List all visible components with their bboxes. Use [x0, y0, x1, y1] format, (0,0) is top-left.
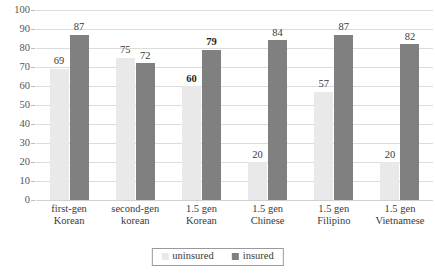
bar-uninsured: 69 [50, 69, 69, 200]
x-axis-category-line: Korean [168, 215, 234, 227]
x-axis-category-label: first-genKorean [36, 203, 102, 227]
x-axis-labels: first-genKoreansecond-genkorean1.5 genKo… [36, 203, 433, 227]
y-tick-mark [31, 181, 35, 182]
x-axis-category-line: Vietnamese [367, 215, 433, 227]
bar-value-label: 79 [206, 37, 217, 48]
bar-uninsured: 60 [182, 86, 201, 200]
bar-insured: 82 [400, 44, 419, 200]
x-axis-category-label: 1.5 genKorean [168, 203, 234, 227]
bar-group: 5787 [301, 10, 367, 200]
x-axis-category-line: 1.5 gen [235, 203, 301, 215]
bar-value-label: 87 [339, 22, 350, 33]
x-axis-category-line: Chinese [235, 215, 301, 227]
y-axis-tick-label: 80 [20, 43, 31, 54]
bar-uninsured: 20 [380, 162, 399, 200]
bar-group: 2084 [235, 10, 301, 200]
x-axis-category-label: 1.5 genFilipino [301, 203, 367, 227]
y-axis-tick-label: 30 [20, 138, 31, 149]
x-axis-category-line: Filipino [301, 215, 367, 227]
y-tick-mark [31, 162, 35, 163]
y-tick-mark [31, 67, 35, 68]
y-tick-mark [31, 143, 35, 144]
legend-item-uninsured[interactable]: uninsured [161, 251, 213, 262]
bar-value-label: 84 [272, 28, 283, 39]
y-axis-tick-label: 70 [20, 62, 31, 73]
x-axis-category-line: korean [102, 215, 168, 227]
bar-groups: 698775726079208457872082 [36, 10, 433, 200]
bar-value-label: 87 [74, 22, 85, 33]
bar-insured: 72 [136, 63, 155, 200]
plot-area: 698775726079208457872082 [36, 10, 433, 200]
bar-group: 6987 [36, 10, 102, 200]
gridline [36, 200, 433, 201]
y-axis-tick-label: 10 [20, 176, 31, 187]
y-axis-tick-label: 40 [20, 119, 31, 130]
bar-insured: 87 [334, 35, 353, 200]
bar-value-label: 69 [54, 56, 65, 67]
y-axis-tick-label: 60 [20, 81, 31, 92]
y-axis-tick-label: 90 [20, 24, 31, 35]
bar-value-label: 57 [319, 79, 330, 90]
bar-insured: 87 [70, 35, 89, 200]
bar-value-label: 20 [252, 150, 263, 161]
y-axis-labels: 1009080706050403020100 [0, 10, 30, 200]
y-tick-mark [31, 48, 35, 49]
y-tick-mark [31, 105, 35, 106]
bar-insured: 84 [268, 40, 287, 200]
bar-uninsured: 20 [248, 162, 267, 200]
y-axis-tick-label: 50 [20, 100, 31, 111]
y-tick-mark [31, 200, 35, 201]
y-tick-mark [31, 86, 35, 87]
bar-value-label: 20 [385, 150, 396, 161]
x-axis-category-label: 1.5 genVietnamese [367, 203, 433, 227]
y-axis-tick-label: 0 [25, 195, 30, 206]
x-axis-category-line: 1.5 gen [168, 203, 234, 215]
legend-label: insured [243, 251, 274, 262]
x-axis-category-label: second-genkorean [102, 203, 168, 227]
bar-value-label: 82 [405, 32, 416, 43]
bar-insured: 79 [202, 50, 221, 200]
y-tick-mark [31, 124, 35, 125]
x-axis-category-label: 1.5 genChinese [235, 203, 301, 227]
bar-value-label: 72 [140, 51, 151, 62]
x-axis-category-line: second-gen [102, 203, 168, 215]
y-axis-tick-label: 100 [14, 5, 30, 16]
x-axis-category-line: first-gen [36, 203, 102, 215]
bar-chart: 1009080706050403020100 69877572607920845… [0, 0, 435, 273]
x-axis-category-line: Korean [36, 215, 102, 227]
legend-item-insured[interactable]: insured [232, 251, 274, 262]
chart-legend: uninsuredinsured [151, 248, 283, 266]
bar-group: 6079 [168, 10, 234, 200]
bar-value-label: 60 [186, 74, 197, 85]
bar-uninsured: 75 [116, 58, 135, 201]
bar-group: 7572 [102, 10, 168, 200]
bar-uninsured: 57 [314, 92, 333, 200]
x-axis-category-line: 1.5 gen [367, 203, 433, 215]
y-tick-mark [31, 10, 35, 11]
x-axis-category-line: 1.5 gen [301, 203, 367, 215]
bar-group: 2082 [367, 10, 433, 200]
bar-value-label: 75 [120, 45, 131, 56]
y-tick-mark [31, 29, 35, 30]
legend-swatch-icon [161, 253, 168, 260]
legend-label: uninsured [172, 251, 213, 262]
y-axis-tick-label: 20 [20, 157, 31, 168]
legend-swatch-icon [232, 253, 239, 260]
